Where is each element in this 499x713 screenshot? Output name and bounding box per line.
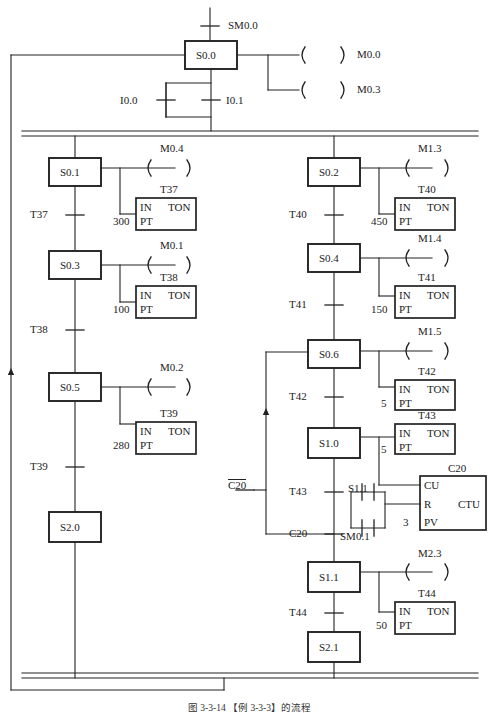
coil-m04-right xyxy=(187,160,190,176)
label-timer-t39-type: TON xyxy=(168,426,190,437)
label-step-s10: S1.0 xyxy=(319,438,339,449)
label-timer-t37-type: TON xyxy=(168,202,190,213)
arrow-loop-left xyxy=(8,368,14,375)
label-reset-contact-sm01: SM0.1 xyxy=(340,531,370,542)
label-counter-type: CTU xyxy=(458,499,480,510)
label-timer-t38-type: TON xyxy=(168,290,190,301)
label-coil-m13: M1.3 xyxy=(418,143,442,154)
label-reset-contact-s11: S1.1 xyxy=(348,483,368,494)
label-timer-t38-preset: 100 xyxy=(113,304,130,315)
label-timer-t42-in: IN xyxy=(399,384,411,395)
label-timer-t42: T42 xyxy=(418,366,436,377)
label-timer-t40-preset: 450 xyxy=(371,216,388,227)
label-coil-m15: M1.5 xyxy=(418,326,442,337)
label-transition-t44: T44 xyxy=(289,607,307,618)
label-coil-m04: M0.4 xyxy=(160,143,184,154)
label-coil-m03: M0.3 xyxy=(357,84,381,95)
label-timer-t39-in: IN xyxy=(140,426,152,437)
label-step-s21: S2.1 xyxy=(319,642,339,653)
label-timer-t44-in: IN xyxy=(399,606,411,617)
label-timer-t39-preset: 280 xyxy=(113,440,130,451)
label-counter-preset: 3 xyxy=(403,517,409,528)
label-counter-pv: PV xyxy=(424,517,438,528)
label-transition-t40: T40 xyxy=(289,209,307,220)
label-timer-t44-type: TON xyxy=(427,606,449,617)
label-sm00: SM0.0 xyxy=(228,20,258,31)
label-timer-t40-pt: PT xyxy=(399,216,412,227)
label-transition-t43: T43 xyxy=(289,486,307,497)
coil-m02-right xyxy=(187,379,190,395)
coil-m15-right xyxy=(445,343,448,359)
label-timer-t40: T40 xyxy=(418,184,436,195)
label-step-s03: S0.3 xyxy=(60,260,80,271)
label-timer-t42-pt: PT xyxy=(399,398,412,409)
label-timer-t40-type: TON xyxy=(427,202,449,213)
label-transition-t37: T37 xyxy=(30,209,48,220)
label-timer-t39-pt: PT xyxy=(140,440,153,451)
label-timer-t44-preset: 50 xyxy=(376,620,387,631)
arrow-feedback-up xyxy=(263,408,269,415)
label-timer-t42-type: TON xyxy=(427,384,449,395)
label-timer-t37: T37 xyxy=(160,184,178,195)
sfc-ladder-diagram xyxy=(0,0,499,713)
label-transition-t42: T42 xyxy=(289,391,307,402)
coil-m03-right xyxy=(341,82,344,98)
label-step-s05: S0.5 xyxy=(60,382,80,393)
label-timer-t41-in: IN xyxy=(399,290,411,301)
label-timer-t44-pt: PT xyxy=(399,620,412,631)
label-step-s01: S0.1 xyxy=(60,167,80,178)
label-step-s02: S0.2 xyxy=(319,167,339,178)
label-transition-t39: T39 xyxy=(30,461,48,472)
label-timer-t43-pt: PT xyxy=(399,442,412,453)
label-step-s04: S0.4 xyxy=(319,253,339,264)
label-timer-t44: T44 xyxy=(418,588,436,599)
coil-m13-right xyxy=(445,160,448,176)
label-timer-t43: T43 xyxy=(418,410,436,421)
coil-m14-right xyxy=(445,250,448,266)
label-coil-m02: M0.2 xyxy=(160,362,184,373)
label-timer-t43-preset: 5 xyxy=(381,444,387,455)
label-timer-t38: T38 xyxy=(160,272,178,283)
label-timer-t37-pt: PT xyxy=(140,216,153,227)
label-contact-i00: I0.0 xyxy=(120,95,137,106)
figure-caption: 图 3-3-14 【例 3-3-3】的流程 xyxy=(0,700,499,713)
coil-m01-right xyxy=(187,257,190,273)
label-coil-m14: M1.4 xyxy=(418,233,442,244)
label-timer-t41: T41 xyxy=(418,272,436,283)
label-timer-t37-preset: 300 xyxy=(113,216,130,227)
label-contact-c20-inverted: C20 xyxy=(228,479,246,491)
label-timer-t41-pt: PT xyxy=(399,304,412,315)
label-coil-m23: M2.3 xyxy=(418,548,442,559)
label-timer-t38-pt: PT xyxy=(140,304,153,315)
label-timer-t43-type: TON xyxy=(427,428,449,439)
label-step-s00: S0.0 xyxy=(196,50,216,61)
label-counter-c20: C20 xyxy=(448,463,466,474)
label-step-s20: S2.0 xyxy=(60,522,80,533)
label-timer-t37-in: IN xyxy=(140,202,152,213)
label-timer-t41-type: TON xyxy=(427,290,449,301)
label-timer-t41-preset: 150 xyxy=(371,304,388,315)
coil-m23-right xyxy=(445,564,448,580)
label-coil-m01: M0.1 xyxy=(160,240,184,251)
label-coil-m00: M0.0 xyxy=(357,49,381,60)
label-step-s11: S1.1 xyxy=(319,572,339,583)
label-transition-t41: T41 xyxy=(289,299,307,310)
label-transition-c20: C20 xyxy=(289,528,307,539)
label-step-s06: S0.6 xyxy=(319,349,339,360)
label-timer-t40-in: IN xyxy=(399,202,411,213)
label-timer-t38-in: IN xyxy=(140,290,152,301)
label-counter-r: R xyxy=(424,499,431,510)
label-transition-t38: T38 xyxy=(30,324,48,335)
coil-m00-left xyxy=(302,47,305,63)
coil-m03-left xyxy=(302,82,305,98)
label-counter-cu: CU xyxy=(424,480,439,491)
label-timer-t42-preset: 5 xyxy=(381,398,387,409)
label-timer-t39: T39 xyxy=(160,408,178,419)
coil-m00-right xyxy=(341,47,344,63)
label-contact-i01: I0.1 xyxy=(226,95,243,106)
label-timer-t43-in: IN xyxy=(399,428,411,439)
